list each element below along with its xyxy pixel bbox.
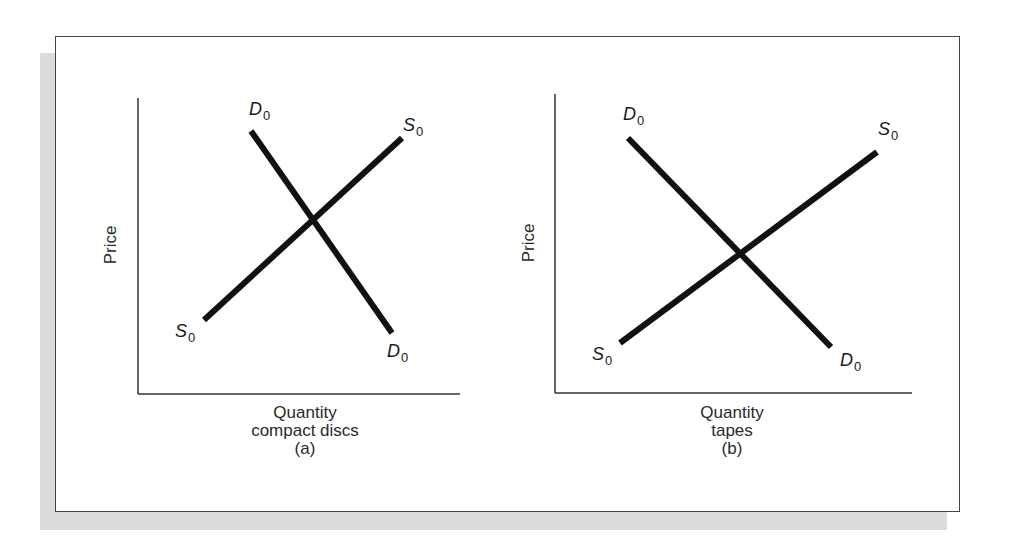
panel-a-supply-label-bottom: S0 xyxy=(175,321,195,345)
panel-a-demand-label-bottom: D0 xyxy=(387,341,408,365)
panel-b-supply-label-bottom: S0 xyxy=(592,344,612,368)
panel-a-tag: (a) xyxy=(295,439,316,458)
panel-b-demand-label-bottom: D0 xyxy=(840,350,861,374)
panel-b-supply-curve xyxy=(620,152,877,343)
panel-b-y-label: Price xyxy=(519,224,538,263)
panel-b-demand-label-top: D0 xyxy=(623,104,644,128)
panel-a-demand-curve xyxy=(251,131,392,333)
panel-b-x-label-line2: tapes xyxy=(711,421,753,440)
panel-a-x-label-line1: Quantity xyxy=(273,403,337,422)
supply-demand-figure: Price Quantity compact discs (a) D0 S0 S… xyxy=(0,0,1011,543)
panel-b: Price Quantity tapes (b) D0 S0 S0 D0 xyxy=(519,94,912,458)
panel-a-y-label: Price xyxy=(101,226,120,265)
panel-a-x-label-line2: compact discs xyxy=(251,421,359,440)
panel-b-x-label-line1: Quantity xyxy=(700,403,764,422)
panel-a-supply-label-top: S0 xyxy=(403,115,423,139)
panel-b-tag: (b) xyxy=(722,439,743,458)
panel-b-supply-label-top: S0 xyxy=(878,119,898,143)
panel-a-demand-label-top: D0 xyxy=(249,99,270,123)
panel-a: Price Quantity compact discs (a) D0 S0 S… xyxy=(101,98,460,458)
panel-a-supply-curve xyxy=(204,138,402,320)
